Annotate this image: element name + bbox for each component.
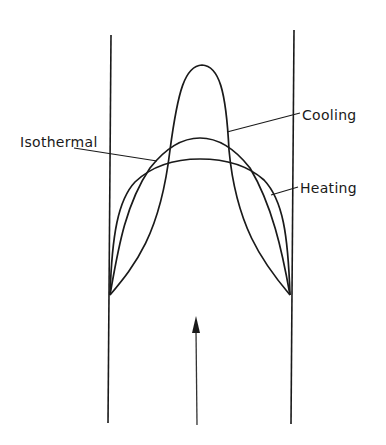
flow-direction-arrow-icon bbox=[192, 316, 200, 425]
heating-label: Heating bbox=[300, 180, 357, 196]
isothermal-label: Isothermal bbox=[20, 134, 98, 150]
left-tube-wall bbox=[108, 35, 111, 423]
cooling-leader-line bbox=[227, 113, 300, 132]
heating-profile-curve bbox=[110, 159, 290, 295]
right-tube-wall bbox=[291, 30, 294, 424]
cooling-label: Cooling bbox=[302, 107, 357, 123]
velocity-profile-diagram: Cooling Isothermal Heating bbox=[0, 0, 386, 445]
isothermal-profile-curve bbox=[110, 138, 290, 295]
heating-leader-line bbox=[271, 187, 298, 195]
